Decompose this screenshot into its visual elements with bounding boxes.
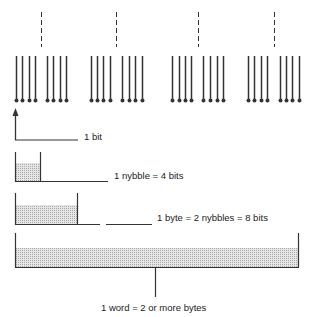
word-container [15,233,299,297]
bit-dot [266,99,270,103]
byte-container [15,193,152,225]
bit-label: 1 bit [84,131,102,142]
nybble-label: 1 nybble = 4 bits [114,170,183,181]
bit-dot [298,99,302,103]
bit-dot [260,99,264,103]
bit-lines [15,12,302,103]
byte-label: 1 byte = 2 nybbles = 8 bits [157,212,268,223]
bit-dot [279,99,283,103]
bit-dot [291,99,295,103]
byte-group-3 [171,12,226,103]
nybble-container [15,152,108,182]
bit-byte-word-diagram [0,0,310,317]
bit-dot [247,99,251,103]
bit-dot [28,99,32,103]
bit-dot [253,99,257,103]
bit-dot [178,99,182,103]
bit-dot [34,99,38,103]
bit-dot [171,99,175,103]
bit-dot [128,99,132,103]
byte-group-1 [15,12,69,103]
bit-dot [121,99,125,103]
bit-dot [141,99,145,103]
bit-dot [15,99,19,103]
bit-dot [285,99,289,103]
bit-dot [46,99,50,103]
bit-dot [52,99,56,103]
bit-dot [96,99,100,103]
byte-group-4 [247,12,302,103]
bit-dot [59,99,63,103]
word-label: 1 word = 2 or more bytes [101,302,206,313]
bit-dot [90,99,94,103]
bit-dot [184,99,188,103]
bit-dot [209,99,213,103]
bit-dot [21,99,25,103]
bit-arrow [13,108,79,140]
byte-group-2 [90,12,145,103]
bit-dot [109,99,113,103]
bit-dot [222,99,226,103]
bit-dot [102,99,106,103]
bit-dot [216,99,220,103]
bit-dot [134,99,138,103]
bit-dot [190,99,194,103]
bit-dot [202,99,206,103]
bit-dot [65,99,69,103]
